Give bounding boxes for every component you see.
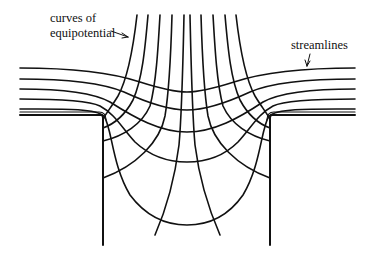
streamline-2: [20, 79, 355, 110]
equipotential-7: [201, 15, 270, 178]
streamlines-label: streamlines: [291, 38, 348, 53]
equipotential-9: [225, 15, 270, 128]
label-arrows: [111, 31, 310, 66]
right-boundary: [267, 112, 355, 245]
equipotential-curves: [103, 15, 270, 235]
streamline-1: [20, 68, 355, 92]
equipotential-label-line1: curves of: [50, 11, 96, 26]
equipotential-label-line2: equipotential: [50, 26, 115, 41]
left-boundary: [20, 112, 106, 245]
streamline-4: [20, 99, 355, 162]
streamline-5: [20, 109, 355, 225]
equipotential-5: [155, 15, 184, 235]
equipotential-8: [213, 15, 270, 141]
streamlines: [20, 68, 355, 225]
